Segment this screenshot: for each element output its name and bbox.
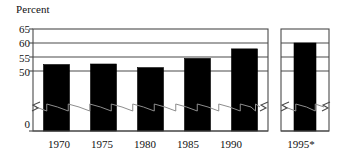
bar-1985 xyxy=(185,58,211,131)
bar-1980 xyxy=(138,68,164,131)
chart-canvas xyxy=(0,0,341,164)
bar-1990 xyxy=(232,49,258,131)
bar-1975 xyxy=(91,64,117,131)
bar-1995 xyxy=(294,43,316,131)
bar-1970 xyxy=(44,65,70,131)
